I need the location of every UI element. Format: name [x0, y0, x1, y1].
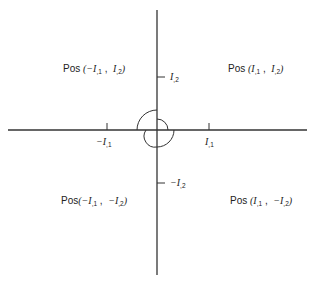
coord-a: −I — [82, 195, 92, 206]
pos-prefix: Pos — [230, 195, 250, 206]
tick-label-neg-i2-sub: ,2 — [180, 182, 185, 189]
small-arc-right-lower — [157, 119, 168, 130]
coord-b: −I — [108, 195, 118, 206]
quadrant-label-top-right: Pos (I,1 , I,2) — [228, 63, 283, 75]
close-paren: ) — [280, 63, 283, 74]
tick-label-neg-i1-sub: ,1 — [106, 141, 111, 148]
pos-prefix: Pos — [63, 63, 83, 74]
tick-label-neg-i1-text: −I — [96, 136, 106, 147]
quadrant-label-top-left: Pos (−I,1 , I,2) — [63, 63, 125, 75]
separator: , — [262, 195, 273, 206]
quadrant-label-bottom-right: Pos (I,1 , −I,2) — [230, 195, 292, 207]
coord-b: −I — [273, 195, 283, 206]
quadrant-label-bottom-left: Pos(−I,1 , −I,2) — [61, 195, 127, 207]
lower-arc — [144, 130, 174, 147]
tick-label-pos-i1-sub: ,1 — [208, 141, 213, 148]
tick-label-neg-i2-text: −I — [170, 177, 180, 188]
tick-label-pos-i1: I,1 — [205, 136, 214, 148]
quadrant-diagram — [0, 0, 313, 281]
large-arc-upper-left — [137, 110, 157, 130]
tick-label-neg-i2: −I,2 — [170, 177, 186, 189]
separator: , — [97, 195, 108, 206]
pos-prefix: Pos — [228, 63, 248, 74]
coord-a: −I — [86, 63, 96, 74]
tick-label-pos-i2-sub: ,2 — [173, 76, 178, 83]
separator: , — [102, 63, 113, 74]
tick-label-neg-i1: −I,1 — [96, 136, 112, 148]
pos-prefix: Pos — [61, 195, 78, 206]
close-paren: ) — [124, 195, 127, 206]
close-paren: ) — [289, 195, 292, 206]
separator: , — [260, 63, 271, 74]
tick-label-pos-i2: I,2 — [170, 71, 179, 83]
close-paren: ) — [122, 63, 125, 74]
